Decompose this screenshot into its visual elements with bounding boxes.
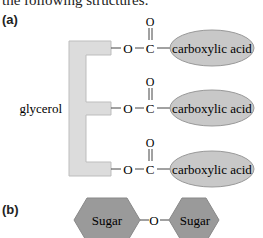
carboxylic-acid-label-1: carboxylic acid xyxy=(172,41,252,56)
oxygen-link-label: O xyxy=(149,213,158,228)
ester-arm-3: O C O carboxylic acid xyxy=(111,136,254,187)
ester-arm-2: O C O carboxylic acid xyxy=(111,75,254,126)
svg-text:C: C xyxy=(146,41,155,56)
structure-diagram: glycerol O C O carboxylic acid O C O car… xyxy=(0,0,263,238)
svg-text:C: C xyxy=(146,162,155,177)
sugar-label-right: Sugar xyxy=(180,213,211,228)
sugar-label-left: Sugar xyxy=(92,213,123,228)
svg-text:O: O xyxy=(146,75,155,89)
glycerol-label: glycerol xyxy=(19,101,62,116)
glycerol-backbone xyxy=(69,41,111,176)
sugar-glycosidic-link: Sugar O Sugar xyxy=(74,198,219,238)
svg-text:C: C xyxy=(146,101,155,116)
svg-text:O: O xyxy=(123,101,132,116)
carboxylic-acid-label-2: carboxylic acid xyxy=(172,101,252,116)
svg-text:O: O xyxy=(146,15,155,29)
carboxylic-acid-label-3: carboxylic acid xyxy=(172,162,252,177)
svg-text:O: O xyxy=(146,136,155,150)
svg-text:O: O xyxy=(123,162,132,177)
ester-arm-1: O C O carboxylic acid xyxy=(111,15,254,66)
svg-text:O: O xyxy=(123,41,132,56)
